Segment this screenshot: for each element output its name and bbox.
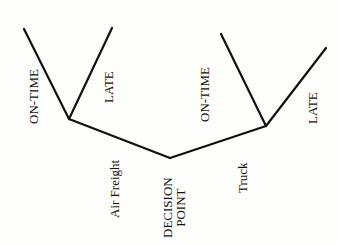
- decision-point-label: DECISION POINT: [161, 177, 187, 238]
- decision-tree-diagram: ON-TIME LATE ON-TIME LATE Air Freight Tr…: [0, 0, 337, 245]
- branch-air-freight-label: Air Freight: [108, 160, 121, 218]
- outcome-air-ontime-label: ON-TIME: [27, 69, 40, 124]
- branch-truck-label: Truck: [236, 162, 249, 193]
- outcome-truck-late-label: LATE: [306, 92, 319, 124]
- outcome-air-late-label: LATE: [102, 71, 115, 103]
- edge-truck-ontime: [221, 34, 266, 126]
- decision-point-line2: POINT: [174, 177, 187, 238]
- edge-air-freight: [69, 119, 170, 158]
- outcome-truck-ontime-label: ON-TIME: [198, 67, 211, 122]
- edge-truck: [170, 126, 266, 158]
